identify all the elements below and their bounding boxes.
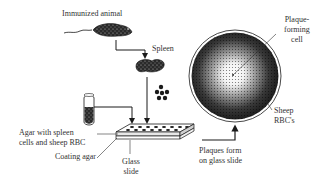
label-sheep-line2: RBC's <box>274 116 295 126</box>
label-agar-line1: Agar with spleen <box>19 128 85 138</box>
label-plaque-line3: cell <box>284 35 310 45</box>
label-plaque-forming-cell: Plaque- forming cell <box>284 15 310 45</box>
label-glass-slide: Glass slide <box>120 157 142 177</box>
leader-coating <box>97 138 117 158</box>
label-agar: Agar with spleen cells and sheep RBC <box>19 128 85 148</box>
label-plaques-form: Plaques form on glass slide <box>199 146 242 166</box>
spleen-cells <box>155 85 169 100</box>
agar-slide-illustration <box>116 124 194 139</box>
plaque-dish-illustration <box>189 30 281 122</box>
label-plaques-line1: Plaques form <box>199 146 242 156</box>
label-spleen: Spleen <box>152 44 174 54</box>
label-sheep-rbc: Sheep RBC's <box>274 106 295 126</box>
label-coating-agar: Coating agar <box>46 152 96 162</box>
arrow-mouse-to-spleen <box>116 40 145 56</box>
arrow-slide-to-plaque <box>202 128 235 140</box>
spleen-illustration <box>136 60 164 72</box>
mouse-illustration <box>64 24 132 37</box>
label-plaque-line2: forming <box>284 25 310 35</box>
label-immunized-animal: Immunized animal <box>62 9 122 19</box>
label-glass-line1: Glass <box>120 157 142 167</box>
label-agar-line2: cells and sheep RBC <box>19 138 85 148</box>
label-glass-line2: slide <box>120 167 142 177</box>
test-tube-illustration <box>84 94 94 126</box>
label-sheep-line1: Sheep <box>274 106 295 116</box>
arrow-tube-to-slide <box>94 107 132 121</box>
label-plaque-line1: Plaque- <box>284 15 310 25</box>
diagram-canvas <box>0 0 329 194</box>
label-plaques-line2: on glass slide <box>199 156 242 166</box>
